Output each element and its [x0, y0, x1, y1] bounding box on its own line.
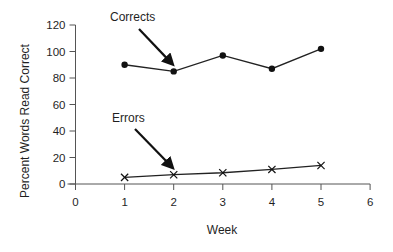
data-point-circle — [318, 46, 324, 52]
data-point-circle — [171, 68, 177, 74]
y-tick-label: 80 — [53, 72, 66, 84]
annotation-errors: Errors — [112, 111, 172, 167]
data-point-circle — [269, 66, 275, 72]
annotation-corrects: Corrects — [110, 10, 172, 63]
series-errors — [121, 162, 325, 181]
data-point-circle — [220, 52, 226, 58]
series-corrects — [121, 46, 324, 75]
y-tick-label: 0 — [59, 178, 65, 190]
data-point-circle — [121, 62, 127, 68]
x-tick-label: 4 — [269, 196, 276, 208]
annotation-label: Errors — [112, 111, 145, 125]
x-tick-label: 6 — [367, 196, 373, 208]
annotation-label: Corrects — [110, 10, 155, 24]
y-axis: 020406080100120 — [46, 19, 75, 190]
x-tick-label: 0 — [72, 196, 78, 208]
x-tick-label: 3 — [220, 196, 226, 208]
x-tick-label: 2 — [170, 196, 176, 208]
arrow-icon — [139, 29, 172, 63]
y-tick-label: 100 — [46, 46, 65, 58]
y-tick-label: 40 — [53, 125, 66, 137]
y-tick-label: 20 — [53, 152, 66, 164]
x-axis-label: Week — [207, 223, 238, 237]
series-layer — [121, 46, 325, 181]
x-tick-label: 5 — [318, 196, 324, 208]
annotations: CorrectsErrors — [110, 10, 172, 167]
line-chart: 020406080100120 0123456 CorrectsErrors P… — [0, 0, 393, 252]
y-tick-label: 60 — [53, 99, 66, 111]
arrow-icon — [135, 129, 172, 167]
y-axis-label: Percent Words Read Correct — [18, 43, 32, 198]
x-tick-label: 1 — [121, 196, 127, 208]
x-axis: 0123456 — [68, 184, 374, 208]
y-tick-label: 120 — [46, 19, 65, 31]
